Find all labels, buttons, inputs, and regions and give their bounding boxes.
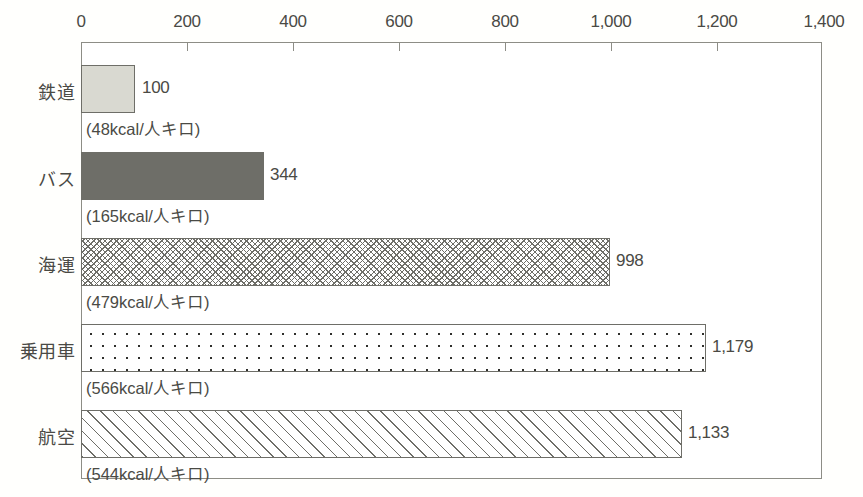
bar-aviation <box>81 410 682 458</box>
x-axis-tick-600 <box>399 43 400 51</box>
x-tick-label-400: 400 <box>279 12 306 32</box>
sub-label-shipping: (479kcal/人キロ) <box>86 289 209 313</box>
value-label-passenger-car: 1,179 <box>712 337 753 357</box>
value-label-bus: 344 <box>270 165 297 185</box>
x-tick-label-1200: 1,200 <box>696 12 737 32</box>
x-tick-label-1000: 1,000 <box>590 12 631 32</box>
value-label-shipping: 998 <box>616 251 643 271</box>
plot-area <box>81 42 822 479</box>
category-label-railway: 鉄道 <box>38 78 75 104</box>
x-axis-tick-800 <box>505 43 506 51</box>
bar-chart: 0 200 400 600 800 1,000 1,200 1,400 鉄道 バ… <box>0 0 863 497</box>
x-tick-label-800: 800 <box>491 12 518 32</box>
sub-label-aviation: (544kcal/人キロ) <box>86 461 209 485</box>
x-tick-label-0: 0 <box>76 12 85 32</box>
value-label-aviation: 1,133 <box>688 423 729 443</box>
x-axis-tick-labels: 0 200 400 600 800 1,000 1,200 1,400 <box>0 0 863 42</box>
x-axis-tick-1200 <box>717 43 718 51</box>
x-axis-tick-400 <box>293 43 294 51</box>
sub-label-passenger-car: (566kcal/人キロ) <box>86 375 209 399</box>
x-tick-label-200: 200 <box>173 12 200 32</box>
bar-railway <box>81 65 135 113</box>
x-tick-label-1400: 1,400 <box>803 12 844 32</box>
bar-passenger-car <box>81 324 706 372</box>
x-axis-tick-1000 <box>611 43 612 51</box>
category-label-bus: バス <box>38 165 75 191</box>
value-label-railway: 100 <box>142 78 169 98</box>
category-label-passenger-car: 乗用車 <box>20 337 76 363</box>
category-label-shipping: 海運 <box>38 251 75 277</box>
category-label-aviation: 航空 <box>38 423 75 449</box>
bar-shipping <box>81 238 610 286</box>
x-axis-tick-200 <box>187 43 188 51</box>
bar-bus <box>81 152 264 200</box>
sub-label-railway: (48kcal/人キロ) <box>86 116 200 140</box>
sub-label-bus: (165kcal/人キロ) <box>86 203 209 227</box>
x-tick-label-600: 600 <box>385 12 412 32</box>
